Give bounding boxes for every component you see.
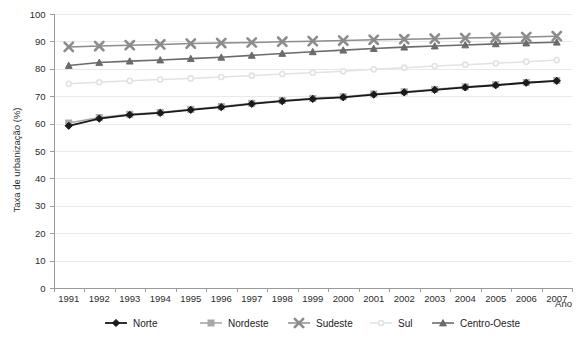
- data-point-marker: [188, 76, 193, 81]
- series-group: [65, 32, 561, 129]
- gridlines-group: [54, 15, 573, 289]
- y-axis-tick-label: 40: [35, 173, 46, 184]
- legend-item-centro-oeste[interactable]: Centro-Oeste: [432, 318, 520, 329]
- legend-label: Centro-Oeste: [460, 318, 520, 329]
- legend-item-sul[interactable]: Sul: [370, 318, 412, 329]
- data-point-marker: [554, 57, 559, 62]
- y-axis-tick-label: 70: [35, 91, 46, 102]
- data-point-marker: [310, 70, 315, 75]
- y-axis-tick-label: 80: [35, 63, 46, 74]
- legend-label: Sul: [398, 318, 412, 329]
- data-point-marker: [280, 71, 285, 76]
- x-axis-tick-label: 2000: [333, 293, 354, 304]
- urbanization-rate-line-chart: 0102030405060708090100 19911992199319941…: [0, 0, 586, 338]
- x-axis-tick-labels: 1991199219931994199519961997199819992000…: [58, 293, 567, 304]
- data-point-marker: [432, 64, 437, 69]
- x-axis-tick-label: 2004: [455, 293, 476, 304]
- x-axis-title: Ano: [555, 298, 572, 309]
- chart-canvas: 0102030405060708090100 19911992199319941…: [0, 0, 586, 338]
- y-axis-tick-label: 30: [35, 200, 46, 211]
- legend-label: Nordeste: [228, 318, 269, 329]
- x-axis-tick-label: 1997: [241, 293, 262, 304]
- x-axis-tick-label: 2002: [394, 293, 415, 304]
- x-axis-tick-label: 1999: [302, 293, 323, 304]
- data-point-marker: [208, 320, 214, 326]
- series-line: [69, 81, 557, 126]
- data-point-marker: [371, 67, 376, 72]
- data-point-marker: [219, 74, 224, 79]
- data-point-marker: [97, 80, 102, 85]
- x-axis: [54, 288, 573, 292]
- y-axis: [50, 14, 55, 289]
- data-point-marker: [158, 77, 163, 82]
- legend-item-sudeste[interactable]: Sudeste: [288, 318, 353, 329]
- x-axis-tick-label: 2006: [516, 293, 537, 304]
- y-axis-tick-labels: 0102030405060708090100: [30, 9, 46, 294]
- x-axis-tick-label: 1993: [119, 293, 140, 304]
- data-point-marker: [341, 69, 346, 74]
- data-point-marker: [127, 78, 132, 83]
- x-axis-tick-label: 1992: [89, 293, 110, 304]
- data-point-marker: [378, 320, 383, 325]
- x-axis-tick-label: 1996: [211, 293, 232, 304]
- y-axis-tick-label: 60: [35, 118, 46, 129]
- x-axis-tick-label: 1994: [150, 293, 171, 304]
- y-axis-tick-label: 100: [30, 9, 46, 20]
- data-point-marker: [112, 319, 119, 326]
- chart-legend: NorteNordesteSudesteSulCentro-Oeste: [105, 318, 520, 329]
- y-axis-tick-label: 10: [35, 255, 46, 266]
- x-axis-tick-label: 2001: [363, 293, 384, 304]
- data-point-marker: [402, 65, 407, 70]
- x-axis-tick-label: 2003: [424, 293, 445, 304]
- data-point-marker: [66, 81, 71, 86]
- legend-label: Sudeste: [316, 318, 353, 329]
- data-point-marker: [493, 61, 498, 66]
- y-axis-title: Taxa de urbanização (%): [11, 107, 22, 212]
- legend-label: Norte: [133, 318, 158, 329]
- data-point-marker: [524, 59, 529, 64]
- x-axis-tick-label: 1991: [58, 293, 79, 304]
- y-axis-tick-label: 90: [35, 36, 46, 47]
- x-axis-tick-label: 1995: [180, 293, 201, 304]
- legend-item-norte[interactable]: Norte: [105, 318, 158, 329]
- data-point-marker: [249, 73, 254, 78]
- series-sul: [66, 57, 559, 86]
- y-axis-tick-label: 0: [40, 283, 45, 294]
- y-axis-tick-label: 20: [35, 228, 46, 239]
- x-axis-tick-label: 2005: [485, 293, 506, 304]
- series-norte: [65, 77, 560, 129]
- legend-item-nordeste[interactable]: Nordeste: [200, 318, 269, 329]
- data-point-marker: [463, 62, 468, 67]
- y-axis-tick-label: 50: [35, 146, 46, 157]
- x-axis-tick-label: 1998: [272, 293, 293, 304]
